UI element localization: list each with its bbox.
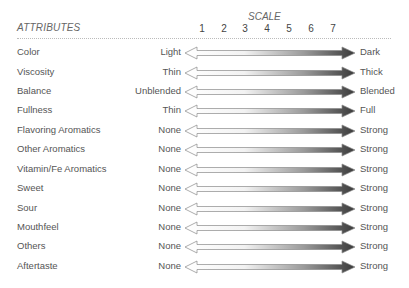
attribute-row-mouthfeel: Mouthfeel None Strong [0, 220, 409, 236]
low-anchor-label: Unblended [135, 85, 181, 96]
high-anchor-label: Full [360, 104, 375, 115]
attribute-row-vitamin-fe-aromatics: Vitamin/Fe Aromatics None Strong [0, 162, 409, 178]
double-arrow-scale-icon [184, 65, 356, 81]
scale-tick-3: 3 [240, 23, 250, 34]
scale-tick-7: 7 [328, 23, 338, 34]
scale-tick-4: 4 [262, 23, 272, 34]
high-anchor-label: Thick [360, 66, 383, 77]
high-anchor-label: Strong [360, 182, 388, 193]
double-arrow-scale-icon [184, 123, 356, 139]
attribute-row-viscosity: Viscosity Thin Thick [0, 65, 409, 81]
scale-tick-6: 6 [306, 23, 316, 34]
scale-header: SCALE [248, 11, 281, 22]
attribute-name: Mouthfeel [17, 221, 59, 232]
low-anchor-label: None [158, 221, 181, 232]
attribute-row-others: Others None Strong [0, 239, 409, 255]
double-arrow-scale-icon [184, 259, 356, 275]
low-anchor-label: None [158, 182, 181, 193]
high-anchor-label: Strong [360, 202, 388, 213]
attribute-row-flavoring-aromatics: Flavoring Aromatics None Strong [0, 123, 409, 139]
attribute-name: Aftertaste [17, 260, 58, 271]
scale-tick-1: 1 [197, 23, 207, 34]
attribute-name: Sweet [17, 182, 43, 193]
attribute-row-fullness: Fullness Thin Full [0, 103, 409, 119]
double-arrow-scale-icon [184, 239, 356, 255]
low-anchor-label: None [158, 260, 181, 271]
double-arrow-scale-icon [184, 162, 356, 178]
low-anchor-label: None [158, 124, 181, 135]
low-anchor-label: None [158, 202, 181, 213]
attribute-name: Fullness [17, 104, 52, 115]
attribute-row-other-aromatics: Other Aromatics None Strong [0, 142, 409, 158]
attribute-name: Sour [17, 202, 37, 213]
low-anchor-label: Thin [163, 104, 181, 115]
attribute-name: Flavoring Aromatics [17, 124, 100, 135]
low-anchor-label: None [158, 240, 181, 251]
attribute-name: Vitamin/Fe Aromatics [17, 163, 107, 174]
double-arrow-scale-icon [184, 201, 356, 217]
attribute-row-sour: Sour None Strong [0, 201, 409, 217]
attribute-row-sweet: Sweet None Strong [0, 181, 409, 197]
low-anchor-label: Light [160, 46, 181, 57]
attribute-name: Color [17, 46, 40, 57]
attribute-row-balance: Balance Unblended Blended [0, 84, 409, 100]
high-anchor-label: Strong [360, 163, 388, 174]
high-anchor-label: Dark [360, 46, 380, 57]
high-anchor-label: Blended [360, 85, 395, 96]
double-arrow-scale-icon [184, 181, 356, 197]
double-arrow-scale-icon [184, 142, 356, 158]
scale-tick-2: 2 [219, 23, 229, 34]
attributes-header: ATTRIBUTES [17, 22, 80, 33]
attribute-name: Balance [17, 85, 51, 96]
attribute-name: Viscosity [17, 66, 54, 77]
high-anchor-label: Strong [360, 124, 388, 135]
low-anchor-label: Thin [163, 66, 181, 77]
high-anchor-label: Strong [360, 260, 388, 271]
high-anchor-label: Strong [360, 143, 388, 154]
double-arrow-scale-icon [184, 84, 356, 100]
high-anchor-label: Strong [360, 240, 388, 251]
attribute-name: Others [17, 240, 46, 251]
double-arrow-scale-icon [184, 45, 356, 61]
low-anchor-label: None [158, 143, 181, 154]
attribute-row-aftertaste: Aftertaste None Strong [0, 259, 409, 275]
attribute-row-color: Color Light Dark [0, 45, 409, 61]
high-anchor-label: Strong [360, 221, 388, 232]
attribute-name: Other Aromatics [17, 143, 85, 154]
scale-tick-5: 5 [284, 23, 294, 34]
header-divider [17, 38, 391, 39]
double-arrow-scale-icon [184, 103, 356, 119]
low-anchor-label: None [158, 163, 181, 174]
double-arrow-scale-icon [184, 220, 356, 236]
